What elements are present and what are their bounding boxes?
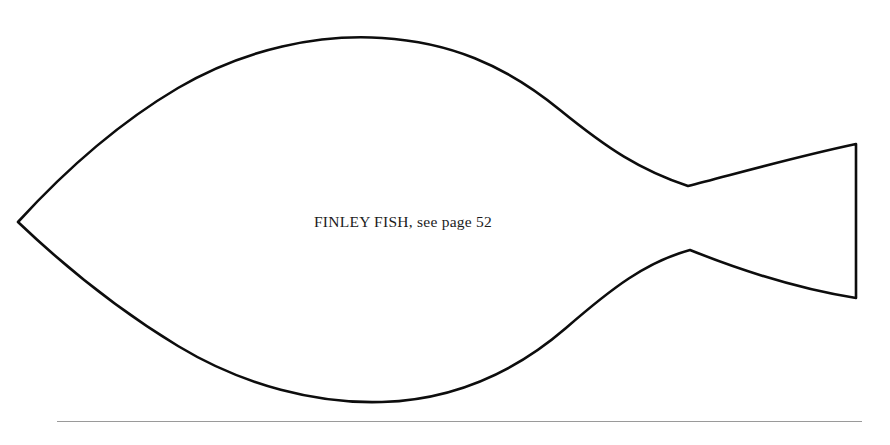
bottom-divider-rule bbox=[57, 421, 862, 422]
page-canvas: FINLEY FISH, see page 52 bbox=[0, 0, 890, 445]
fish-caption-label: FINLEY FISH, see page 52 bbox=[0, 213, 890, 230]
